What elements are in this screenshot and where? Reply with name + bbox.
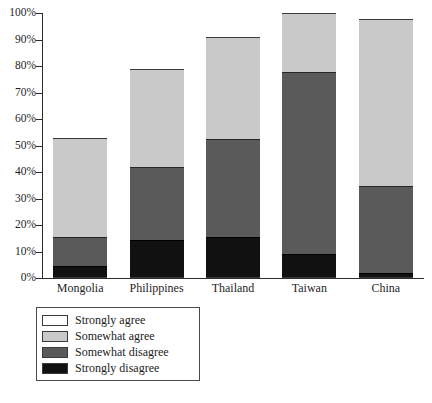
legend-swatch (42, 315, 68, 326)
bar-segment-somewhat-agree (359, 19, 413, 186)
x-axis-line (42, 278, 424, 279)
y-axis-tick-label: 40% (2, 166, 36, 178)
legend-label: Strongly agree (75, 314, 145, 327)
bar-taiwan (282, 13, 336, 278)
bar-segment-strongly-disagree (206, 237, 260, 277)
legend-label: Strongly disagree (75, 362, 159, 375)
x-axis-label-taiwan: Taiwan (271, 281, 347, 295)
plot-area (42, 13, 424, 278)
y-axis-tick (36, 278, 43, 279)
legend-swatch (42, 347, 68, 358)
bar-segment-somewhat-disagree (53, 237, 107, 266)
x-axis-label-china: China (348, 281, 424, 295)
legend-label: Somewhat agree (75, 330, 155, 343)
bar-segment-somewhat-disagree (359, 186, 413, 273)
y-axis-tick-label: 70% (2, 87, 36, 99)
bar-segment-somewhat-agree (282, 13, 336, 71)
y-axis-tick-label: 60% (2, 113, 36, 125)
y-axis-tick-label: 90% (2, 34, 36, 46)
bar-segment-strongly-agree (130, 12, 184, 69)
y-axis-tick-label: 20% (2, 219, 36, 231)
bar-segment-somewhat-agree (130, 69, 184, 167)
stacked-bar-chart: 0%10%20%30%40%50%60%70%80%90%100% Mongol… (0, 0, 432, 403)
legend-swatch (42, 331, 68, 342)
bar-philippines (130, 13, 184, 278)
bar-segment-strongly-disagree (53, 266, 107, 277)
y-axis-tick-label: 10% (2, 246, 36, 258)
y-axis-tick-label: 0% (2, 272, 36, 284)
bar-segment-strongly-disagree (282, 254, 336, 277)
legend-item: Strongly disagree (42, 360, 194, 376)
bar-segment-somewhat-agree (53, 138, 107, 237)
y-axis-tick-label: 100% (2, 7, 36, 19)
y-axis-tick-label: 30% (2, 193, 36, 205)
y-axis-tick-label: 50% (2, 140, 36, 152)
bar-china (359, 13, 413, 278)
x-axis-label-thailand: Thailand (195, 281, 271, 295)
x-axis-label-mongolia: Mongolia (42, 281, 118, 295)
bar-mongolia (53, 13, 107, 278)
legend-item: Strongly agree (42, 312, 194, 328)
bar-segment-strongly-disagree (130, 240, 184, 277)
legend-item: Somewhat agree (42, 328, 194, 344)
legend-item: Somewhat disagree (42, 344, 194, 360)
bar-segment-somewhat-disagree (206, 139, 260, 237)
y-axis-tick-label: 80% (2, 60, 36, 72)
bar-segment-somewhat-agree (206, 37, 260, 139)
legend-swatch (42, 363, 68, 374)
bar-segment-strongly-agree (282, 12, 336, 13)
bar-thailand (206, 13, 260, 278)
bar-segment-somewhat-disagree (130, 167, 184, 240)
bar-segment-strongly-agree (359, 12, 413, 19)
chart-legend: Strongly agreeSomewhat agreeSomewhat dis… (36, 307, 200, 381)
bar-segment-strongly-agree (206, 12, 260, 37)
x-axis-label-philippines: Philippines (118, 281, 194, 295)
legend-label: Somewhat disagree (75, 346, 169, 359)
bar-segment-strongly-disagree (359, 273, 413, 277)
bar-segment-somewhat-disagree (282, 72, 336, 255)
bar-segment-strongly-agree (53, 12, 107, 138)
